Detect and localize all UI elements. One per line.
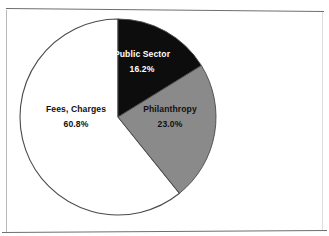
pie-label-fees-charges: Fees, Charges 60.8% bbox=[30, 105, 122, 129]
pie-label-public-sector-value: 16.2% bbox=[103, 65, 181, 74]
pie-label-philanthropy-value: 23.0% bbox=[128, 120, 212, 129]
figure-root: Public Sector 16.2% Philanthropy 23.0% F… bbox=[0, 0, 329, 236]
pie-chart: Public Sector 16.2% Philanthropy 23.0% F… bbox=[0, 0, 329, 236]
pie-label-public-sector: Public Sector 16.2% bbox=[103, 50, 181, 74]
pie-label-fees-charges-value: 60.8% bbox=[30, 120, 122, 129]
pie-label-philanthropy-name: Philanthropy bbox=[128, 105, 212, 114]
pie-label-philanthropy: Philanthropy 23.0% bbox=[128, 105, 212, 129]
pie-label-public-sector-name: Public Sector bbox=[103, 50, 181, 59]
pie-label-fees-charges-name: Fees, Charges bbox=[30, 105, 122, 114]
